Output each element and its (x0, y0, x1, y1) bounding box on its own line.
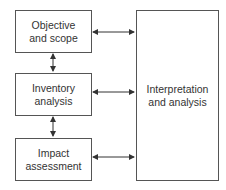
box-impact-assessment: Impact assessment (15, 138, 92, 181)
box-inventory-analysis: Inventory analysis (15, 73, 92, 116)
box-interpretation-and-analysis: Interpretation and analysis (136, 10, 219, 181)
box-label: Inventory analysis (32, 82, 75, 108)
box-label: Objective and scope (29, 19, 77, 45)
box-label: Impact assessment (25, 147, 81, 173)
box-objective-and-scope: Objective and scope (15, 10, 92, 53)
box-label: Interpretation and analysis (147, 83, 209, 109)
